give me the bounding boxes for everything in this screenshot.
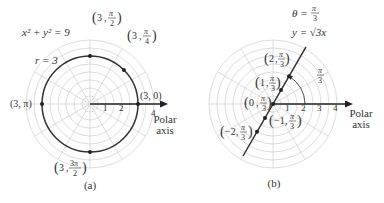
svg-text:): ) <box>276 75 281 91</box>
tick-1: 1 <box>285 103 290 113</box>
svg-text:2: 2 <box>73 169 77 178</box>
svg-text:): ) <box>267 95 272 111</box>
label-neg2-pi3: ( −2 , π 3 ) <box>220 123 253 142</box>
svg-text:,: , <box>285 115 288 126</box>
radius-label: r = 3 <box>35 54 58 66</box>
tick-1: 1 <box>103 103 108 113</box>
label-3-3pi2: ( 3 , 3π 2 ) <box>54 159 87 178</box>
svg-text:π: π <box>270 74 275 83</box>
polar-axis-label-b-2: axis <box>352 118 370 130</box>
label-3-pi2: ( 3 , π 2 ) <box>92 9 122 28</box>
svg-text:3: 3 <box>262 104 266 113</box>
svg-text:2: 2 <box>269 53 274 64</box>
line-equation: y = √3x <box>291 26 326 38</box>
svg-text:θ =: θ = <box>292 7 308 19</box>
tick-3: 3 <box>317 103 322 113</box>
svg-text:): ) <box>152 28 157 44</box>
svg-text:3: 3 <box>318 76 322 85</box>
point-neg2-pi3 <box>255 130 259 134</box>
svg-text:−1: −1 <box>274 115 285 126</box>
equation-label: x² + y² = 9 <box>21 26 70 38</box>
svg-text:): ) <box>82 160 87 176</box>
svg-text:π: π <box>279 50 284 59</box>
svg-text:1: 1 <box>260 77 265 88</box>
theta-equation: θ = π 3 <box>292 4 319 23</box>
point-3-3pi2 <box>88 150 92 154</box>
tick-2: 2 <box>301 103 306 113</box>
caption-b: (b) <box>268 177 281 190</box>
svg-text:,: , <box>275 53 278 64</box>
svg-text:3: 3 <box>313 14 317 23</box>
tick-4: 4 <box>333 103 338 113</box>
svg-text:4: 4 <box>145 37 149 46</box>
label-3-0: (3, 0) <box>140 90 162 102</box>
svg-text:,: , <box>256 97 259 108</box>
svg-text:π: π <box>241 123 246 132</box>
svg-text:,: , <box>236 126 239 137</box>
svg-text:3: 3 <box>59 162 64 173</box>
figure-b: θ = π 3 y = √3x π 3 1 2 3 4 ( 2 , π 3 ) … <box>209 4 373 190</box>
tick-2: 2 <box>119 103 124 113</box>
caption-a: (a) <box>84 179 97 192</box>
svg-text:3: 3 <box>97 12 102 23</box>
svg-text:0: 0 <box>249 97 254 108</box>
svg-text:3: 3 <box>290 122 294 131</box>
point-3-0 <box>136 102 140 106</box>
svg-text:2: 2 <box>110 19 114 28</box>
svg-text:): ) <box>117 10 122 26</box>
point-3-pi2 <box>88 54 92 58</box>
svg-text:3: 3 <box>132 30 137 41</box>
svg-text:3π: 3π <box>70 159 78 168</box>
svg-text:3: 3 <box>241 133 245 142</box>
label-3-pi: (3, π) <box>10 98 32 110</box>
svg-text:3: 3 <box>271 84 275 93</box>
svg-text:): ) <box>297 113 302 129</box>
label-3-pi4: ( 3 , π 4 ) <box>127 27 157 46</box>
label-1-pi3: ( 1 , π 3 ) <box>255 74 281 93</box>
polar-diagrams: x² + y² = 9 r = 3 1 2 4 (3, 0) (3, π) ( … <box>0 0 384 203</box>
svg-text:π: π <box>144 27 149 36</box>
figure-a: x² + y² = 9 r = 3 1 2 4 (3, 0) (3, π) ( … <box>10 9 177 192</box>
svg-text:π: π <box>312 4 317 13</box>
svg-text:,: , <box>66 162 69 173</box>
point-3-pi4 <box>122 68 126 72</box>
svg-text:): ) <box>285 51 290 67</box>
svg-text:π: π <box>109 9 114 18</box>
svg-text:,: , <box>139 30 142 41</box>
point-2-pi3 <box>287 74 291 78</box>
svg-text:,: , <box>104 12 107 23</box>
arrow-icon <box>160 101 168 108</box>
polar-axis-label-a-2: axis <box>156 124 174 136</box>
svg-text:,: , <box>266 77 269 88</box>
svg-text:π: π <box>318 66 323 75</box>
svg-text:−2: −2 <box>225 126 236 137</box>
point-3-pi <box>40 102 44 106</box>
svg-text:): ) <box>248 124 253 140</box>
point-neg1-pi3 <box>263 116 267 120</box>
svg-text:3: 3 <box>280 60 284 69</box>
